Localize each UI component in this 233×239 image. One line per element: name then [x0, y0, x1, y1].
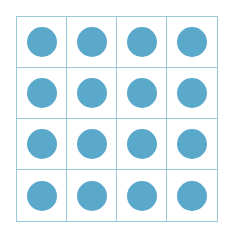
grid-cell — [117, 119, 167, 170]
grid-cell — [17, 170, 67, 221]
grid-cell — [167, 119, 217, 170]
circle-dot — [127, 181, 157, 211]
dot-grid — [16, 16, 218, 222]
circle-dot — [77, 78, 107, 108]
grid-cell — [17, 68, 67, 119]
grid-cell — [67, 17, 117, 68]
grid-cell — [117, 170, 167, 221]
grid-cell — [167, 170, 217, 221]
grid-cell — [167, 17, 217, 68]
circle-dot — [177, 27, 207, 57]
grid-cell — [67, 119, 117, 170]
grid-cell — [17, 17, 67, 68]
circle-dot — [77, 181, 107, 211]
circle-dot — [177, 181, 207, 211]
circle-dot — [27, 78, 57, 108]
circle-dot — [127, 27, 157, 57]
circle-dot — [27, 129, 57, 159]
circle-dot — [77, 27, 107, 57]
circle-dot — [127, 129, 157, 159]
grid-cell — [167, 68, 217, 119]
grid-cell — [117, 68, 167, 119]
grid-cell — [17, 119, 67, 170]
circle-dot — [177, 129, 207, 159]
circle-dot — [27, 27, 57, 57]
circle-dot — [177, 78, 207, 108]
grid-cell — [67, 170, 117, 221]
circle-dot — [27, 181, 57, 211]
grid-cell — [67, 68, 117, 119]
grid-cell — [117, 17, 167, 68]
circle-dot — [127, 78, 157, 108]
circle-dot — [77, 129, 107, 159]
